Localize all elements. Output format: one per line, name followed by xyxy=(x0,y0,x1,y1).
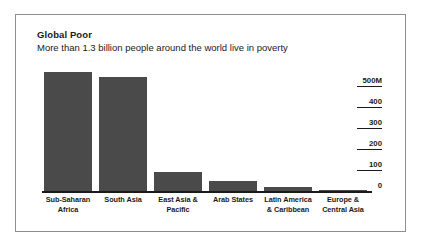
bar xyxy=(44,72,92,191)
chart-figure: Global Poor More than 1.3 billion people… xyxy=(0,0,422,246)
y-tick-label: 100 xyxy=(356,160,382,169)
y-tick-label: 400 xyxy=(356,97,382,106)
chart-panel: Global Poor More than 1.3 billion people… xyxy=(15,14,406,232)
y-axis: 0100200300400500M xyxy=(356,15,406,215)
y-tick-label: 200 xyxy=(356,139,382,148)
y-tick-rule xyxy=(357,107,382,108)
y-tick-rule xyxy=(357,128,382,129)
bars-layer xyxy=(16,15,405,191)
y-tick-rule xyxy=(357,86,382,87)
bar xyxy=(99,77,147,191)
bar xyxy=(154,172,202,191)
category-label: Europe &Central Asia xyxy=(310,195,376,214)
y-tick-label: 500M xyxy=(356,76,382,85)
y-tick-rule xyxy=(357,149,382,150)
y-tick-rule xyxy=(357,170,382,171)
y-tick-label: 300 xyxy=(356,118,382,127)
y-tick-label: 0 xyxy=(356,181,382,190)
axis-baseline xyxy=(42,191,372,193)
bar xyxy=(209,181,257,191)
plot-area: 0100200300400500M Sub-SaharanAfricaSouth… xyxy=(16,15,405,231)
